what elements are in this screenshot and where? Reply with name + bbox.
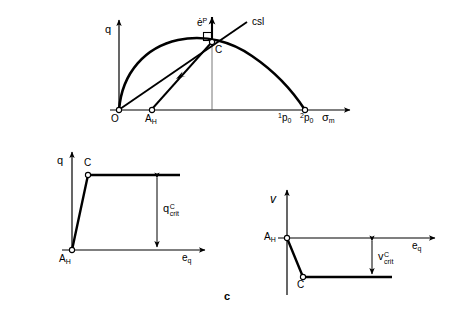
stress-path-panel bbox=[110, 17, 350, 113]
q-crit-dimension-label: qCcrit bbox=[163, 203, 169, 214]
marker-deviator-critical-c bbox=[85, 172, 90, 177]
q-crit-subscript: crit bbox=[170, 210, 179, 217]
point-origin-label: O bbox=[111, 114, 119, 124]
v-crit-symbol: v bbox=[378, 250, 384, 262]
marker-point-a-h bbox=[149, 107, 154, 112]
sigma-subscript: m bbox=[329, 117, 335, 124]
critical-state-line bbox=[120, 22, 247, 109]
v-crit-dimension-label: vCcrit bbox=[378, 251, 384, 262]
marker-volume-start-a-h bbox=[284, 235, 289, 240]
q-crit-symbol: q bbox=[163, 202, 169, 214]
marker-deviator-start-a-h bbox=[69, 247, 74, 252]
q-subscript-left: q bbox=[188, 257, 192, 264]
v-crit-superscript: C bbox=[384, 251, 389, 258]
csl-label: csl bbox=[252, 17, 264, 27]
hardening-stress-path bbox=[152, 43, 211, 109]
marker-point-critical bbox=[209, 39, 214, 44]
h-subscript-top: H bbox=[152, 118, 157, 125]
plastic-superscript: P bbox=[203, 17, 208, 24]
specific-volume-eq-axis-label: eq bbox=[412, 241, 421, 252]
a-symbol-left: A bbox=[59, 253, 66, 264]
sigma-symbol: σ bbox=[322, 111, 329, 123]
deviator-eq-axis-label: eq bbox=[182, 253, 191, 264]
marker-point-origin bbox=[116, 107, 121, 112]
p0-second-subscript: 0 bbox=[309, 117, 313, 124]
deviator-q-axis-label: q bbox=[57, 155, 63, 166]
plastic-strain-rate-label: ėP bbox=[197, 17, 207, 28]
point-critical-label-top: C bbox=[215, 45, 222, 55]
q-subscript-right: q bbox=[418, 245, 422, 252]
stress-path-q-axis-label: q bbox=[105, 24, 111, 35]
specific-volume-v-axis-label: v bbox=[270, 193, 276, 205]
p0-second-label: 2p0 bbox=[300, 112, 313, 124]
a-symbol-right: A bbox=[264, 231, 271, 242]
p0-first-subscript: 0 bbox=[287, 117, 291, 124]
figure-container: q σm ėP csl O AH C 1p0 2p0 q eq C AH qCc… bbox=[0, 0, 459, 317]
a-symbol-top: A bbox=[145, 113, 152, 124]
h-subscript-right: H bbox=[271, 236, 276, 243]
deviator-point-a-h-label: AH bbox=[59, 254, 71, 265]
v-crit-subscript: crit bbox=[384, 258, 393, 265]
p0-first-label: 1p0 bbox=[278, 112, 291, 124]
specific-volume-point-c-label: C bbox=[297, 280, 304, 290]
stress-path-sigma-axis-label: σm bbox=[322, 112, 335, 124]
point-a-h-label-top: AH bbox=[145, 114, 157, 125]
q-crit-superscript: C bbox=[170, 203, 175, 210]
h-subscript-left: H bbox=[66, 258, 71, 265]
specific-volume-response-curve bbox=[287, 238, 392, 277]
specific-volume-point-a-h-label: AH bbox=[264, 232, 276, 243]
figure-vector-canvas bbox=[0, 0, 459, 317]
figure-caption: c bbox=[224, 291, 230, 302]
deviator-point-c-label: C bbox=[84, 158, 91, 168]
